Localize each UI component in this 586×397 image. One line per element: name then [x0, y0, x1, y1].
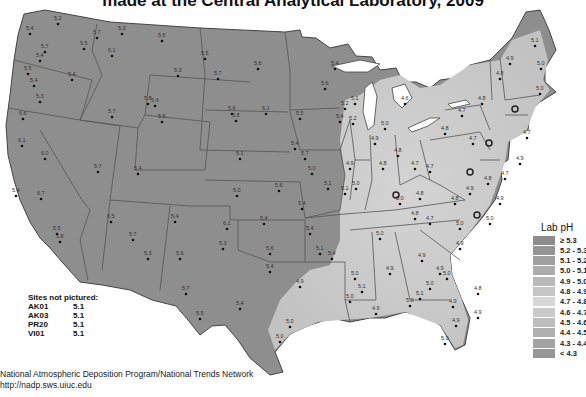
- site-dot: [278, 190, 281, 193]
- site-ph-label: 4.7: [458, 107, 466, 113]
- site-dot: [269, 271, 272, 274]
- legend-swatch: [533, 349, 555, 358]
- legend-label: 4.3 - 4.4: [560, 339, 586, 348]
- site-dot: [399, 203, 402, 206]
- site-dot: [354, 278, 357, 281]
- site-ph-label: 5.4: [328, 250, 336, 256]
- site-dot: [429, 223, 432, 226]
- legend-swatch: [533, 277, 555, 286]
- site-ph-label: 5.2: [54, 15, 62, 21]
- site-ph-label: 5.5: [80, 40, 88, 46]
- legend-label: 4.5 - 4.6: [560, 318, 586, 327]
- site-dot: [83, 48, 86, 51]
- site-ph-label: 5.6: [321, 80, 329, 86]
- site-dot: [39, 101, 42, 104]
- site-dot: [349, 301, 352, 304]
- site-dot: [454, 203, 457, 206]
- site-dot: [44, 51, 47, 54]
- site-dot: [154, 105, 157, 108]
- site-ph-label: 5.0: [456, 220, 464, 226]
- site-dot: [97, 171, 100, 174]
- site-ph-label: 4.7: [426, 215, 434, 221]
- site-ph-label: 6.7: [37, 190, 45, 196]
- site-dot: [414, 218, 417, 221]
- site-ph-label: 5.5: [196, 310, 204, 316]
- site-ph-label: 4.7: [469, 135, 477, 141]
- site-dot: [469, 193, 472, 196]
- site-ph-label: 6.1: [18, 137, 26, 143]
- site-ph-label: 5.0: [406, 297, 414, 303]
- site-ph-label: 5.1: [316, 245, 324, 251]
- site-ph-label: 4.8: [478, 95, 486, 101]
- site-ph-label: 5.1: [236, 150, 244, 156]
- site-dot: [235, 120, 238, 123]
- sites-not-pictured-heading: Sites not pictured:: [28, 293, 98, 302]
- site-dot: [177, 75, 180, 78]
- site-dot: [489, 223, 492, 226]
- legend-label: 5.0 - 5.1: [560, 266, 586, 275]
- site-ph-label: 4.9: [466, 185, 474, 191]
- site-ph-label: 5.4: [236, 300, 244, 306]
- site-dot: [477, 317, 480, 320]
- site-ph-label: 5.5: [53, 225, 61, 231]
- site-ph-label: 4.8: [394, 147, 402, 153]
- site-dot: [389, 273, 392, 276]
- site-ph-label: 5.4: [12, 187, 20, 193]
- site-ph-label: 5.5: [24, 65, 32, 71]
- site-dot: [269, 253, 272, 256]
- legend-item: 4.5 - 4.6: [533, 317, 586, 327]
- site-dot: [161, 121, 164, 124]
- site-ph-label: 5.4: [36, 52, 44, 58]
- site-dot: [409, 305, 412, 308]
- site-dot: [361, 291, 364, 294]
- site-dot: [185, 293, 188, 296]
- site-dot: [455, 325, 458, 328]
- site-ph-label: 5.3: [144, 250, 152, 256]
- site-dot: [29, 33, 32, 36]
- legend-label: 5.1 - 5.2: [560, 256, 586, 265]
- site-ph-label: 5.8: [56, 233, 64, 239]
- site-dot: [121, 33, 124, 36]
- site-dot: [179, 258, 182, 261]
- site-ph-label: 4.9: [418, 252, 426, 258]
- site-dot: [239, 308, 242, 311]
- site-ph-label: 4.7: [411, 160, 419, 166]
- site-dot: [324, 88, 327, 91]
- site-ph-label: 5.7: [129, 231, 137, 237]
- site-dot: [39, 60, 42, 63]
- site-ph-label: 4.9: [456, 240, 464, 246]
- site-dot: [96, 37, 99, 40]
- site-dot: [344, 193, 347, 196]
- site-ph-label: 5.6: [158, 113, 166, 119]
- site-dot: [199, 318, 202, 321]
- site-dot: [33, 85, 36, 88]
- legend-item: 4.6 - 4.7: [533, 307, 586, 317]
- legend-swatch: [533, 328, 555, 337]
- site-ph-label: 4.9: [516, 155, 524, 161]
- site-dot: [429, 171, 432, 174]
- site-ph-label: 5.7: [94, 163, 102, 169]
- site-ph-label: 5.0: [276, 333, 284, 339]
- site-dot: [509, 63, 512, 66]
- not-pictured-row: AK035.1: [28, 311, 98, 320]
- site-dot: [481, 103, 484, 106]
- site-dot: [294, 148, 297, 151]
- site-ph-label: 5.0: [376, 230, 384, 236]
- site-ph-label: 4.8: [416, 190, 424, 196]
- site-dot: [204, 58, 207, 61]
- site-dot: [327, 188, 330, 191]
- site-ph-label: 4.9: [506, 55, 514, 61]
- site-dot: [526, 137, 529, 140]
- legend-swatch: [533, 256, 555, 265]
- site-dot: [354, 103, 357, 106]
- site-ph-label: 4.9: [474, 309, 482, 315]
- site-ph-label: 4.7: [523, 129, 531, 135]
- footer-credit: National Atmospheric Deposition Program/…: [0, 369, 253, 390]
- site-dot: [226, 228, 229, 231]
- site-dot: [382, 168, 385, 171]
- site-ph-label: 5.2: [341, 100, 349, 106]
- site-dot: [446, 278, 449, 281]
- site-ph-label: 5.0: [426, 280, 434, 286]
- legend-title: Lab pH: [541, 222, 573, 233]
- legend-swatch: [533, 266, 555, 275]
